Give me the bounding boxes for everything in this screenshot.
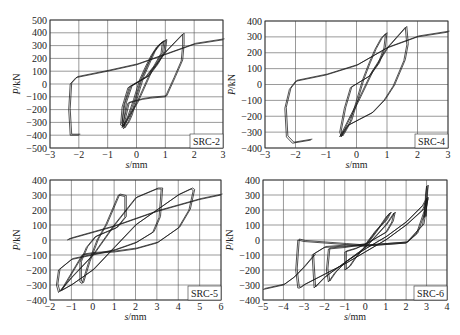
x-tick-label: −4 [278,301,289,312]
x-tick-label: 2 [192,149,197,160]
x-tick-label: 4 [176,301,181,312]
y-tick-label: 400 [32,175,47,186]
chart-panel-src-2: −3−2−10123−500−400−300−200−1000100200300… [11,15,226,171]
x-tick-label: 3 [446,149,451,160]
y-tick-label: −200 [241,111,262,122]
y-tick-label: 400 [247,16,262,27]
curve-hysteresis [340,34,386,137]
y-tick-label: 300 [247,31,262,42]
chart-panel-src-4: −3−2−10123−400−300−200−1000100200300400s… [226,16,451,171]
curve-loop--3.3 [296,200,427,289]
hysteresis-figure: −3−2−10123−500−400−300−200−1000100200300… [0,0,460,335]
curve-cycle [81,194,126,283]
y-tick-label: −300 [26,280,47,291]
x-axis-label: s/mm [345,159,367,170]
curve-cycle [286,31,449,142]
y-axis-label: P/kN [226,74,237,96]
y-tick-label: −300 [241,127,262,138]
y-tick-label: −100 [239,250,260,261]
y-tick-label: 200 [32,53,47,64]
y-tick-label: 200 [247,47,262,58]
specimen-tag: SRC-6 [417,288,444,299]
x-tick-label: 0 [90,301,95,312]
x-tick-label: −1 [66,301,77,312]
y-tick-label: 100 [32,220,47,231]
x-tick-label: −2 [290,149,301,160]
x-tick-label: −2 [74,149,85,160]
curve-hysteresis [122,41,165,129]
x-tick-label: −3 [299,301,310,312]
y-axis-label: P/kN [224,229,235,251]
y-tick-label: 200 [32,205,47,216]
x-tick-label: −2 [319,301,330,312]
curve-cycle [122,41,164,125]
figure-canvas: −3−2−10123−500−400−300−200−1000100200300… [0,0,460,335]
specimen-tag: SRC-4 [418,136,445,147]
y-tick-label: −100 [26,250,47,261]
x-tick-label: 5 [197,301,202,312]
y-tick-label: 0 [257,79,262,90]
y-axis-label: P/kN [11,73,22,95]
hysteresis-curves [263,185,428,290]
curve-envelope [263,255,314,290]
x-tick-label: 2 [404,301,409,312]
grid-lines [50,20,223,148]
y-tick-label: −200 [26,104,47,115]
x-tick-label: −1 [102,149,113,160]
y-tick-label: −400 [26,130,47,141]
y-tick-label: −200 [239,265,260,276]
x-tick-label: 3 [221,149,226,160]
y-tick-label: −300 [239,280,260,291]
y-tick-label: 300 [32,190,47,201]
y-tick-label: −400 [241,143,262,154]
x-tick-label: 1 [385,149,390,160]
curve-envelope [69,40,223,135]
y-axis-label: P/kN [11,229,22,251]
x-tick-label: 1 [383,301,388,312]
x-tick-label: 1 [112,301,117,312]
x-tick-label: 1 [163,149,168,160]
x-tick-label: 3 [424,301,429,312]
curve-envelope [67,195,221,240]
curve-envelope [285,32,448,143]
grid-lines [265,21,448,148]
y-tick-label: 400 [32,27,47,38]
curve-cycle [62,188,195,290]
x-tick-label: −1 [321,149,332,160]
chart-panel-src-5: −2−10123456−400−300−200−1000100200300400… [11,175,224,323]
y-tick-label: 400 [245,175,260,186]
y-tick-label: −400 [239,295,260,306]
y-tick-label: −300 [26,117,47,128]
x-tick-label: 4 [445,301,450,312]
y-tick-label: 100 [32,66,47,77]
y-tick-label: 500 [32,15,47,26]
y-tick-label: 0 [255,235,260,246]
curve-cycle [70,39,224,134]
y-tick-label: −400 [26,295,47,306]
specimen-tag: SRC-5 [191,288,218,299]
x-axis-label: s/mm [124,311,146,322]
chart-panel-src-6: −5−4−3−2−101234−400−300−200−100010020030… [224,175,450,323]
x-tick-label: 2 [415,149,420,160]
specimen-tag: SRC-2 [193,136,220,147]
y-tick-label: 100 [247,63,262,74]
curve-cycle [341,26,408,135]
y-tick-label: −200 [26,265,47,276]
grid-lines [263,180,447,300]
y-tick-label: −100 [26,91,47,102]
y-tick-label: 0 [42,235,47,246]
x-tick-label: 3 [154,301,159,312]
y-tick-label: 300 [32,40,47,51]
y-tick-label: 300 [245,190,260,201]
y-tick-label: −100 [241,95,262,106]
y-tick-label: 200 [245,205,260,216]
y-tick-label: 100 [245,220,260,231]
x-axis-label: s/mm [125,159,147,170]
x-tick-label: 6 [219,301,224,312]
y-tick-label: 0 [42,79,47,90]
x-axis-label: s/mm [344,311,366,322]
y-tick-label: −500 [26,143,47,154]
